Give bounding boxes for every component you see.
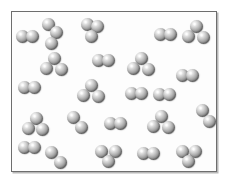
atom-sphere <box>54 156 67 169</box>
molecule-layer <box>0 0 230 183</box>
atom-sphere <box>114 117 127 130</box>
atom-sphere <box>92 90 105 103</box>
particle-diagram-figure <box>0 0 230 183</box>
atom-sphere <box>186 69 199 82</box>
atom-sphere <box>142 63 155 76</box>
atom-sphere <box>85 30 98 43</box>
atom-sphere <box>197 31 210 44</box>
atom-sphere <box>45 37 58 50</box>
atom-sphere <box>164 28 177 41</box>
atom-sphere <box>75 121 88 134</box>
atom-sphere <box>28 81 41 94</box>
atom-sphere <box>28 141 41 154</box>
atom-sphere <box>55 63 68 76</box>
atom-sphere <box>147 147 160 160</box>
atom-sphere <box>203 115 216 128</box>
atom-sphere <box>36 123 49 136</box>
atom-sphere <box>147 120 160 133</box>
atom-sphere <box>163 88 176 101</box>
atom-sphere <box>77 89 90 102</box>
atom-sphere <box>40 62 53 75</box>
atom-sphere <box>162 121 175 134</box>
atom-sphere <box>182 155 195 168</box>
atom-sphere <box>22 122 35 135</box>
atom-sphere <box>102 155 115 168</box>
atom-sphere <box>182 30 195 43</box>
atom-sphere <box>135 87 148 100</box>
atom-sphere <box>26 30 39 43</box>
atom-sphere <box>102 54 115 67</box>
atom-sphere <box>127 62 140 75</box>
